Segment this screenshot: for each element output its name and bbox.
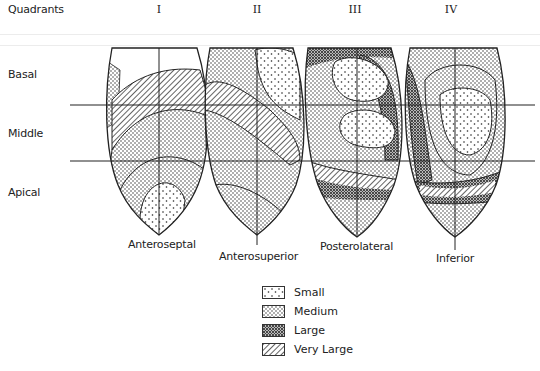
diagonal-hatch-swatch-icon (262, 343, 285, 356)
legend-label: Large (294, 324, 325, 337)
legend-label: Small (294, 286, 325, 299)
medium-dots-swatch-icon (262, 305, 285, 318)
segment-II-anterosuperior (200, 40, 320, 240)
legend-item-medium: Medium (262, 302, 353, 321)
legend-item-small: Small (262, 283, 353, 302)
segment-III-posterolateral (300, 40, 410, 240)
legend-label: Very Large (294, 343, 353, 356)
legend: Small Medium Large Very Large (262, 283, 353, 359)
segment-anteroseptal-label: Anteroseptal (128, 238, 196, 251)
dense-dots-swatch-icon (262, 324, 285, 337)
sparse-dots-swatch-icon (262, 286, 285, 299)
legend-item-large: Large (262, 321, 353, 340)
segment-anterosuperior-label: Anterosuperior (219, 250, 298, 263)
legend-item-very-large: Very Large (262, 340, 353, 359)
segment-posterolateral-label: Posterolateral (320, 240, 393, 253)
legend-label: Medium (294, 305, 338, 318)
segment-inferior-label: Inferior (436, 252, 474, 265)
